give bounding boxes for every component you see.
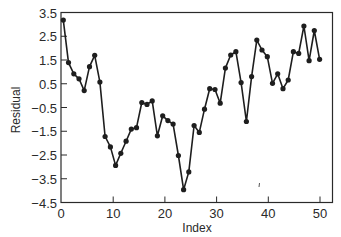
data-point	[233, 49, 238, 54]
data-point	[259, 47, 264, 52]
x-axis-ticks: 01020304050	[57, 197, 327, 221]
data-point	[103, 134, 108, 139]
data-point	[124, 139, 129, 144]
data-point	[113, 163, 118, 168]
x-tick-label: 30	[209, 206, 223, 221]
data-point	[76, 76, 81, 81]
data-point	[118, 151, 123, 156]
data-point	[202, 107, 207, 112]
data-point	[92, 53, 97, 58]
data-point	[108, 144, 113, 149]
data-point	[239, 80, 244, 85]
residual-series-markers	[61, 18, 323, 193]
data-point	[129, 127, 134, 132]
residual-line-chart: 3.52.51.50.5−0.5−1.5−2.5−3.5−4.5 0102030…	[0, 0, 341, 237]
y-tick-label: −3.5	[31, 172, 57, 187]
y-tick-label: 2.5	[39, 29, 57, 44]
data-point	[296, 51, 301, 56]
data-point	[160, 113, 165, 118]
data-point	[270, 81, 275, 86]
data-point	[192, 123, 197, 128]
data-point	[82, 88, 87, 93]
data-point	[212, 87, 217, 92]
y-tick-label: −2.5	[31, 148, 57, 163]
data-point	[312, 28, 317, 33]
data-point	[71, 71, 76, 76]
data-point	[176, 153, 181, 158]
data-point	[249, 74, 254, 79]
data-point	[181, 187, 186, 192]
data-point	[317, 57, 322, 62]
data-point	[171, 122, 176, 127]
y-tick-label: 0.5	[39, 77, 57, 92]
data-point	[286, 77, 291, 82]
data-point	[150, 98, 155, 103]
data-point	[223, 66, 228, 71]
data-point	[97, 80, 102, 85]
data-point	[254, 38, 259, 43]
data-point	[291, 49, 296, 54]
y-tick-label: −4.5	[31, 196, 57, 211]
data-point	[244, 119, 249, 124]
y-axis-ticks: 3.52.51.50.5−0.5−1.5−2.5−3.5−4.5	[31, 6, 67, 211]
x-tick-label: 40	[261, 206, 275, 221]
data-point	[307, 58, 312, 63]
y-tick-label: −0.5	[31, 101, 57, 116]
data-point	[139, 100, 144, 105]
x-tick-label: 20	[158, 206, 172, 221]
x-tick-label: 0	[57, 206, 64, 221]
y-tick-label: −1.5	[31, 124, 57, 139]
x-axis-label: Index	[182, 221, 211, 235]
data-point	[275, 71, 280, 76]
data-point	[61, 18, 66, 23]
x-tick-label: 10	[106, 206, 120, 221]
data-point	[228, 52, 233, 57]
data-point	[186, 169, 191, 174]
data-point	[197, 130, 202, 135]
data-point	[134, 125, 139, 130]
data-point	[144, 102, 149, 107]
scan-artifact-mark	[259, 183, 260, 187]
y-axis-label: Residual	[9, 87, 23, 134]
y-tick-label: 1.5	[39, 53, 57, 68]
y-tick-label: 3.5	[39, 6, 57, 21]
data-point	[155, 133, 160, 138]
data-point	[280, 86, 285, 91]
data-point	[165, 118, 170, 123]
data-point	[301, 23, 306, 28]
data-point	[207, 86, 212, 91]
data-point	[265, 54, 270, 59]
data-point	[66, 60, 71, 65]
data-point	[87, 64, 92, 69]
data-point	[218, 101, 223, 106]
residual-series-line	[63, 20, 319, 190]
x-tick-label: 50	[313, 206, 327, 221]
